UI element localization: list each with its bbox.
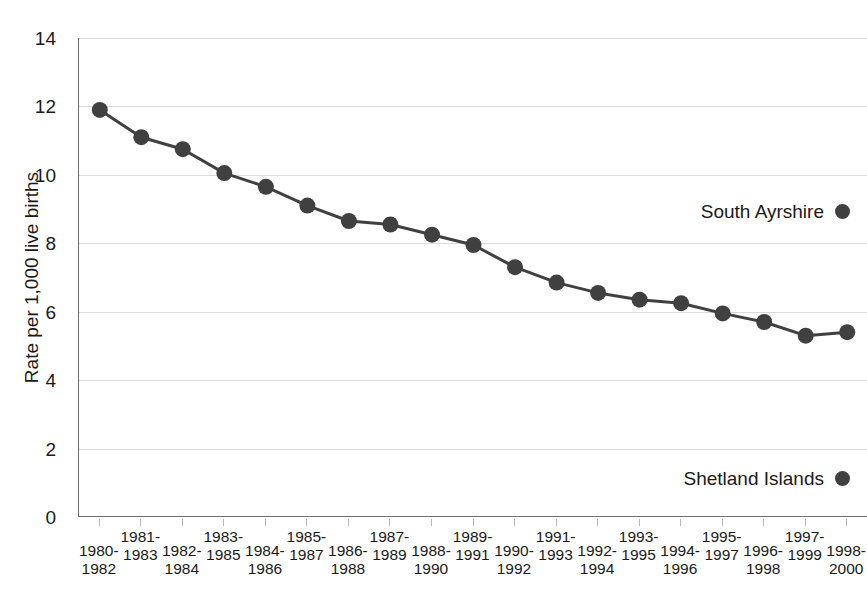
y-axis-ticklabel: 14 <box>35 29 56 48</box>
legend-item-label: Shetland Islands <box>684 469 825 488</box>
y-axis-ticklabel: 4 <box>45 371 56 390</box>
x-axis-ticklabel: 1994-1996 <box>660 542 700 578</box>
data-point-marker[interactable] <box>133 129 149 145</box>
data-point-marker[interactable] <box>673 295 689 311</box>
x-axis-ticklabel: 1986-1988 <box>328 542 368 578</box>
legend-item-label: South Ayrshire <box>701 202 824 221</box>
series-line <box>100 110 847 336</box>
x-axis-ticklabel: 1996-1998 <box>743 542 783 578</box>
x-axis-tick <box>722 519 723 526</box>
y-axis-ticklabel: 12 <box>35 97 56 116</box>
x-axis-tick <box>597 519 598 526</box>
legend-item-south-ayrshire[interactable]: South Ayrshire <box>701 202 850 221</box>
data-point-marker[interactable] <box>466 237 482 253</box>
data-point-marker[interactable] <box>424 227 440 243</box>
data-point-marker[interactable] <box>632 292 648 308</box>
y-axis-ticklabel: 10 <box>35 165 56 184</box>
x-axis-ticklabel: 1982-1984 <box>162 542 202 578</box>
data-point-marker[interactable] <box>258 179 274 195</box>
data-point-marker[interactable] <box>341 213 357 229</box>
data-point-marker[interactable] <box>382 217 398 233</box>
x-axis-tick <box>473 519 474 526</box>
data-point-marker[interactable] <box>299 198 315 214</box>
data-point-marker[interactable] <box>756 314 772 330</box>
x-axis-tick <box>348 519 349 526</box>
x-axis-tick <box>431 519 432 526</box>
data-point-marker[interactable] <box>216 165 232 181</box>
x-axis-tick <box>556 519 557 526</box>
data-point-marker[interactable] <box>92 102 108 118</box>
y-axis-ticklabels: 02468101214 <box>0 0 70 601</box>
x-axis-ticklabel: 1988-1990 <box>411 542 451 578</box>
legend-marker-icon <box>835 471 850 486</box>
x-axis-ticklabel: 1993-1995 <box>619 528 659 564</box>
data-point-marker[interactable] <box>507 259 523 275</box>
x-axis-ticklabel: 1998-2000 <box>826 542 866 578</box>
x-axis-tick <box>514 519 515 526</box>
x-axis-tick <box>680 519 681 526</box>
y-axis-ticklabel: 8 <box>45 234 56 253</box>
x-axis-tick <box>265 519 266 526</box>
x-axis-tick <box>182 519 183 526</box>
y-axis-ticklabel: 6 <box>45 302 56 321</box>
x-axis-ticklabel: 1995-1997 <box>702 528 742 564</box>
x-axis-ticklabel: 1985-1987 <box>287 528 327 564</box>
data-point-marker[interactable] <box>798 328 814 344</box>
plot-area: South Ayrshire Shetland Islands <box>78 38 867 517</box>
series-layer <box>79 38 867 517</box>
x-axis-tick <box>805 519 806 526</box>
x-axis-tick <box>223 519 224 526</box>
x-axis-ticklabels: 1980-19821981-19831982-19841983-19851984… <box>78 519 867 601</box>
x-axis-tick <box>306 519 307 526</box>
x-axis-ticklabel: 1981-1983 <box>120 528 160 564</box>
data-point-marker[interactable] <box>839 324 855 340</box>
data-point-marker[interactable] <box>715 305 731 321</box>
x-axis-tick <box>140 519 141 526</box>
x-axis-ticklabel: 1983-1985 <box>203 528 243 564</box>
x-axis-tick <box>389 519 390 526</box>
x-axis-ticklabel: 1987-1989 <box>370 528 410 564</box>
y-axis-ticklabel: 0 <box>45 508 56 527</box>
x-axis-tick <box>763 519 764 526</box>
x-axis-ticklabel: 1989-1991 <box>453 528 493 564</box>
x-axis-ticklabel: 1991-1993 <box>536 528 576 564</box>
data-point-marker[interactable] <box>175 141 191 157</box>
x-axis-ticklabel: 1997-1999 <box>785 528 825 564</box>
legend-marker-icon <box>835 204 850 219</box>
chart-figure: Rate per 1,000 live births 02468101214 S… <box>0 0 867 601</box>
x-axis-ticklabel: 1980-1982 <box>79 542 119 578</box>
x-axis-ticklabel: 1992-1994 <box>577 542 617 578</box>
data-point-marker[interactable] <box>590 285 606 301</box>
x-axis-tick <box>846 519 847 526</box>
y-axis-ticklabel: 2 <box>45 439 56 458</box>
x-axis-tick <box>99 519 100 526</box>
x-axis-ticklabel: 1984-1986 <box>245 542 285 578</box>
x-axis-tick <box>639 519 640 526</box>
data-point-marker[interactable] <box>549 275 565 291</box>
x-axis-ticklabel: 1990-1992 <box>494 542 534 578</box>
legend-item-shetland-islands[interactable]: Shetland Islands <box>684 469 851 488</box>
